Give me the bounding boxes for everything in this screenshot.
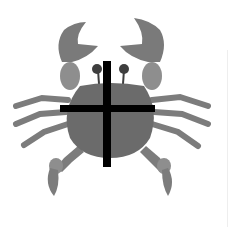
crab-image xyxy=(0,0,229,227)
crab-legs-right xyxy=(152,97,208,146)
right-edge-line xyxy=(227,50,228,227)
crab-claws xyxy=(58,18,164,90)
